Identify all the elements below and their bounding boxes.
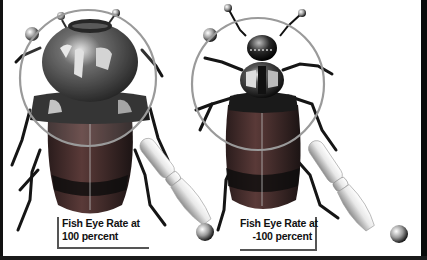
right-beetle-head [247,35,277,61]
caption-right: Fish Eye Rate at -100 percent [240,217,317,251]
caption-left-line2: 100 percent [62,230,149,243]
antenna-tip [298,9,306,17]
antenna-tip [224,4,232,12]
caption-left: Fish Eye Rate at 100 percent [57,217,149,249]
right-handle-knob [390,225,408,243]
illustration-frame: Fish Eye Rate at 100 percent Fish Eye Ra… [0,0,427,260]
left-handle-knob [196,223,214,241]
frame-border-right [421,0,427,260]
caption-left-line1: Fish Eye Rate at [62,217,149,230]
left-magnifier-handle [136,134,214,227]
left-lens-ring [20,10,156,146]
right-antennae [229,10,301,36]
frame-border-bottom [0,256,427,260]
right-beetle [196,4,338,230]
right-beetle-wings [226,105,301,209]
frame-border-left [0,0,3,258]
caption-right-line1: Fish Eye Rate at [240,217,312,230]
caption-right-line2: -100 percent [240,230,312,243]
